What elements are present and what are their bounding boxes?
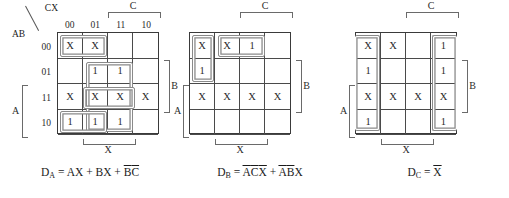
bracket-c xyxy=(406,12,459,18)
kmap-cell[interactable]: X xyxy=(356,84,381,110)
bracket-b-label: B xyxy=(467,79,478,91)
bracket-c xyxy=(240,12,293,18)
bracket-x-label: X xyxy=(97,143,119,155)
equation-term: BX xyxy=(96,166,112,178)
kmap-cell[interactable]: 1 xyxy=(240,33,265,59)
kmap-cell[interactable]: X xyxy=(83,33,108,59)
kmap-grid: X X 1 1 1 X X X X 1 1 xyxy=(355,32,457,134)
kmap-cell[interactable] xyxy=(265,33,290,59)
kmap-cell[interactable] xyxy=(240,110,265,136)
kmap-cell[interactable] xyxy=(381,59,406,85)
bracket-c-label: C xyxy=(122,0,144,11)
bracket-c xyxy=(108,12,161,18)
kmap-cell[interactable] xyxy=(215,110,240,136)
kmap-cell[interactable]: 1 xyxy=(190,59,215,85)
kmap-cell[interactable]: X xyxy=(431,84,456,110)
kmap-diagram: CX AB 00 01 11 10 00 01 11 10 C B A X X … xyxy=(0,0,509,198)
kmap-cell[interactable] xyxy=(381,110,406,136)
kmap-cell[interactable] xyxy=(215,59,240,85)
equation-lhs-sub: A xyxy=(49,171,55,180)
kmap-row: X X xyxy=(58,33,158,59)
kmap-cell[interactable]: X xyxy=(108,84,133,110)
kmap-da: CX AB 00 01 11 10 00 01 11 10 C B A X X … xyxy=(0,0,180,198)
row-label-01: 01 xyxy=(33,60,51,86)
kmap-cell[interactable]: 1 xyxy=(431,59,456,85)
col-label-11: 11 xyxy=(108,18,134,30)
kmap-cell[interactable]: 1 xyxy=(83,110,108,136)
kmap-cell[interactable]: 1 xyxy=(431,110,456,136)
kmap-cell[interactable] xyxy=(406,33,431,59)
corner-slash xyxy=(25,6,39,31)
kmap-cell[interactable]: 1 xyxy=(108,110,133,136)
equation-term: X xyxy=(433,166,441,178)
kmap-cell[interactable]: X xyxy=(58,33,83,59)
col-label-00: 00 xyxy=(57,18,83,30)
kmap-cell[interactable]: X xyxy=(190,33,215,59)
equation-eq: = xyxy=(424,166,433,178)
equation-dc: DC = X xyxy=(340,166,509,180)
kmap-cell[interactable]: X xyxy=(406,84,431,110)
kmap-cell[interactable] xyxy=(133,33,158,59)
kmap-cell[interactable]: X xyxy=(190,84,215,110)
kmap-cell[interactable]: 1 xyxy=(108,59,133,85)
bracket-a-label: A xyxy=(172,104,183,116)
kmap-cell[interactable] xyxy=(265,59,290,85)
equation-lhs-sub: C xyxy=(416,171,421,180)
col-header-group-label: CX xyxy=(45,3,58,13)
bracket-a-label: A xyxy=(338,104,349,116)
bracket-a-label: A xyxy=(10,104,21,116)
kmap-cell[interactable]: X xyxy=(58,84,83,110)
equation-da: DA = AX + BX + BC xyxy=(0,166,180,180)
kmap-row: 1 1 xyxy=(356,110,456,136)
kmap-row xyxy=(190,110,290,136)
kmap-cell[interactable] xyxy=(133,59,158,85)
equation-term: BC xyxy=(124,166,139,178)
kmap-row: X X 1 xyxy=(356,33,456,59)
row-header-group-label: AB xyxy=(12,29,25,39)
equation-lhs-sub: B xyxy=(226,171,231,180)
bracket-a xyxy=(22,85,28,138)
equation-db: DB = ACX + ABX xyxy=(180,166,340,180)
kmap-cell[interactable]: X xyxy=(381,84,406,110)
kmap-row: X X X X xyxy=(356,84,456,110)
kmap-row: 1 1 xyxy=(356,59,456,85)
kmap-cell[interactable]: 1 xyxy=(431,33,456,59)
kmap-cell[interactable]: X xyxy=(240,84,265,110)
kmap-cell[interactable]: X xyxy=(133,84,158,110)
kmap-row: 1 1 1 xyxy=(58,110,158,136)
kmap-cell[interactable]: 1 xyxy=(356,59,381,85)
kmap-cell[interactable]: X xyxy=(265,84,290,110)
kmap-cell[interactable] xyxy=(133,110,158,136)
kmap-cell[interactable]: 1 xyxy=(83,59,108,85)
kmap-cell[interactable] xyxy=(58,59,83,85)
kmap-cell[interactable] xyxy=(265,110,290,136)
equation-term: ABX xyxy=(278,166,302,178)
equation-eq: = xyxy=(58,166,67,178)
col-label-10: 10 xyxy=(134,18,160,30)
equation-lhs: DB xyxy=(217,166,231,178)
kmap-cell[interactable] xyxy=(240,59,265,85)
bracket-c-label: C xyxy=(254,0,276,11)
kmap-cell[interactable] xyxy=(406,59,431,85)
kmap-grid: X X 1 1 X X X X xyxy=(189,32,291,134)
bracket-b-label: B xyxy=(301,79,312,91)
kmap-cell[interactable]: 1 xyxy=(58,110,83,136)
kmap-cell[interactable] xyxy=(190,110,215,136)
kmap-row: X X X X xyxy=(190,84,290,110)
kmap-row: 1 xyxy=(190,59,290,85)
kmap-cell[interactable]: 1 xyxy=(356,110,381,136)
row-label-11: 11 xyxy=(33,85,51,111)
equation-lhs: DA xyxy=(41,166,55,178)
kmap-cell[interactable] xyxy=(108,33,133,59)
kmap-cell[interactable]: X xyxy=(215,84,240,110)
kmap-cell[interactable]: X xyxy=(356,33,381,59)
axis-corner-label: CX AB xyxy=(12,4,58,38)
row-label-00: 00 xyxy=(33,34,51,60)
kmap-row: 1 1 xyxy=(58,59,158,85)
kmap-cell[interactable]: X xyxy=(83,84,108,110)
kmap-cell[interactable]: X xyxy=(381,33,406,59)
equation-lhs: DC xyxy=(407,166,421,178)
bracket-x-label: X xyxy=(395,143,417,155)
kmap-cell[interactable] xyxy=(406,110,431,136)
kmap-cell[interactable]: X xyxy=(215,33,240,59)
